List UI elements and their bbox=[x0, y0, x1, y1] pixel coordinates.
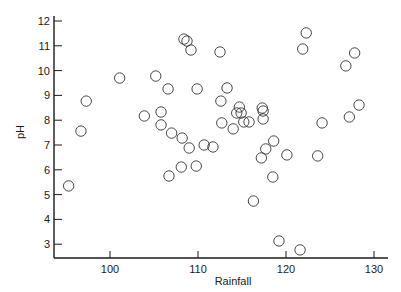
data-point bbox=[217, 118, 227, 128]
data-point bbox=[341, 61, 351, 71]
data-point bbox=[179, 34, 189, 44]
data-point bbox=[191, 161, 201, 171]
data-point bbox=[192, 84, 202, 94]
data-point bbox=[232, 108, 242, 118]
data-point bbox=[344, 112, 354, 122]
data-point bbox=[256, 153, 266, 163]
data-point bbox=[81, 96, 91, 106]
y-tick-label: 12 bbox=[38, 15, 50, 27]
data-point bbox=[156, 120, 166, 130]
data-point bbox=[151, 71, 161, 81]
y-tick-label: 7 bbox=[44, 139, 50, 151]
data-point bbox=[301, 28, 311, 38]
y-ticks: 3456789101112 bbox=[38, 15, 62, 250]
scatter-chart: 100110120130 3456789101112 Rainfall pH bbox=[0, 0, 401, 292]
data-point bbox=[166, 128, 176, 138]
data-point bbox=[163, 84, 173, 94]
data-point bbox=[268, 136, 278, 146]
data-point bbox=[268, 172, 278, 182]
data-point bbox=[228, 124, 238, 134]
y-tick-label: 6 bbox=[44, 164, 50, 176]
data-point bbox=[317, 118, 327, 128]
y-tick-label: 11 bbox=[39, 40, 50, 52]
y-tick-label: 5 bbox=[44, 189, 50, 201]
data-point bbox=[156, 107, 166, 117]
data-point bbox=[349, 48, 359, 58]
data-point bbox=[234, 102, 244, 112]
x-tick-label: 130 bbox=[365, 263, 383, 275]
data-point bbox=[282, 150, 292, 160]
data-point bbox=[177, 133, 187, 143]
data-point bbox=[164, 171, 174, 181]
y-tick-label: 3 bbox=[44, 238, 50, 250]
data-point bbox=[186, 45, 196, 55]
data-point bbox=[258, 114, 268, 124]
data-point bbox=[298, 44, 308, 54]
data-point bbox=[63, 181, 73, 191]
x-axis-label: Rainfall bbox=[215, 275, 252, 287]
y-axis-label: pH bbox=[14, 125, 26, 139]
data-points bbox=[63, 28, 364, 255]
y-tick-label: 10 bbox=[38, 65, 50, 77]
axes bbox=[54, 16, 388, 258]
data-point bbox=[216, 96, 226, 106]
data-point bbox=[222, 83, 232, 93]
x-ticks: 100110120130 bbox=[101, 251, 383, 275]
y-tick-label: 9 bbox=[44, 89, 50, 101]
data-point bbox=[274, 236, 284, 246]
data-point bbox=[139, 111, 149, 121]
data-point bbox=[354, 100, 364, 110]
x-tick-label: 100 bbox=[101, 263, 119, 275]
data-point bbox=[248, 196, 258, 206]
x-tick-label: 120 bbox=[277, 263, 295, 275]
data-point bbox=[184, 143, 194, 153]
data-point bbox=[76, 126, 86, 136]
data-point bbox=[114, 73, 124, 83]
x-tick-label: 110 bbox=[189, 263, 207, 275]
data-point bbox=[215, 47, 225, 57]
y-tick-label: 8 bbox=[44, 114, 50, 126]
data-point bbox=[176, 162, 186, 172]
data-point bbox=[312, 151, 322, 161]
y-tick-label: 4 bbox=[44, 213, 50, 225]
data-point bbox=[295, 245, 305, 255]
